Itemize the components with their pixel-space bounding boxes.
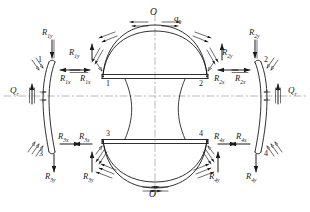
- sub: 3y: [88, 177, 93, 183]
- right-side-wall: [255, 60, 267, 154]
- axis-label-top: O: [150, 8, 157, 18]
- edge-load-right-subscript: r: [295, 91, 297, 97]
- sub: 3x: [63, 137, 68, 143]
- node-label-4: 4: [199, 130, 203, 138]
- reaction-label-R2x-outer: R2x: [235, 74, 245, 85]
- arrow-Qr-right: [276, 84, 281, 104]
- right-wall-load-arrows: [267, 58, 282, 156]
- arrow-R1y-outer: [52, 40, 54, 58]
- reaction-label-R1y-inner: R1y: [69, 48, 79, 59]
- sub: 2x: [240, 79, 245, 85]
- left-wall-load-arrows: [28, 58, 43, 156]
- reaction-label-R1x-outer: R1x: [60, 74, 70, 85]
- reaction-label-R1y-outer: R1y: [42, 28, 52, 39]
- sub: 4x: [219, 137, 224, 143]
- left-side-wall: [43, 60, 55, 154]
- reaction-label-R4y-outer: R4y: [246, 172, 256, 183]
- edge-load-left-label: Qr: [10, 86, 19, 97]
- sub: 4x: [241, 137, 246, 143]
- sub: 1y: [47, 33, 52, 39]
- reaction-label-R1x-inner: R1x: [80, 74, 90, 85]
- reaction-label-R4x-outer: R4x: [236, 132, 246, 143]
- node-label-2: 2: [199, 80, 203, 88]
- sub: 2y: [254, 33, 259, 39]
- reaction-label-R2y-outer: R2y: [249, 28, 259, 39]
- node-label-3: 3: [106, 130, 110, 138]
- node-label-4-outer: 4: [264, 150, 268, 158]
- sub: 3y: [50, 177, 55, 183]
- reaction-label-R3y-inner: R3y: [83, 172, 93, 183]
- sub: 2y: [227, 53, 232, 59]
- axis-label-bottom: O': [149, 190, 158, 200]
- edge-load-right-label: Qr: [288, 86, 297, 97]
- node-label-1: 1: [106, 80, 110, 88]
- node-label-3-outer: 3: [39, 150, 43, 158]
- arrow-R2y-outer: [255, 40, 257, 58]
- sub: 3x: [84, 137, 89, 143]
- arrow-Qr-left: [30, 84, 35, 104]
- reaction-label-R4x-inner: R4x: [214, 132, 224, 143]
- reaction-label-R3x-outer: R3x: [58, 132, 68, 143]
- sub: 1x: [85, 79, 90, 85]
- node-label-1-outer: 1: [38, 56, 42, 64]
- distributed-load-subscript: 0: [179, 19, 182, 25]
- sub: 4y: [251, 177, 256, 183]
- distributed-load-label: q0: [174, 14, 181, 25]
- edge-load-left-subscript: r: [17, 91, 19, 97]
- diagram-canvas: O O' q0 Qr Qr 1 2 3 4 1 2 3 4 R1y R1x R1…: [0, 0, 310, 212]
- reaction-label-R3x-inner: R3x: [79, 132, 89, 143]
- sub: 1x: [65, 79, 70, 85]
- reaction-label-R3y-outer: R3y: [45, 172, 55, 183]
- reaction-label-R2x-inner: R2x: [214, 74, 224, 85]
- sub: 4y: [214, 177, 219, 183]
- sub: 2x: [219, 79, 224, 85]
- reaction-label-R2y-inner: R2y: [222, 48, 232, 59]
- sub: 1y: [74, 53, 79, 59]
- node-label-2-outer: 2: [264, 56, 268, 64]
- reaction-label-R4y-inner: R4y: [209, 172, 219, 183]
